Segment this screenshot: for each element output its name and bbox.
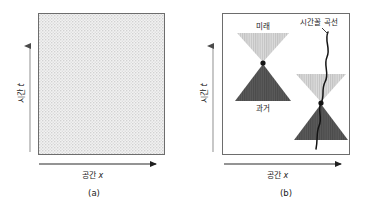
figure-root: 시간 t 공간 x (a) 미래 과거 [0, 0, 374, 206]
panel-b-space-axis-label: 공간 x [267, 170, 289, 180]
panel-a-caption: (a) [88, 188, 100, 198]
panel-b-time-axis-label: 시간 t [199, 82, 209, 103]
panel-a-space-axis-label: 공간 x [82, 170, 104, 180]
panel-a-time-axis-label-word: 시간 [16, 88, 26, 103]
svg-text:시간 t: 시간 t [199, 82, 209, 103]
future-label: 미래 [256, 22, 270, 31]
panel-b-space-axis-label-word: 공간 [267, 170, 282, 180]
past-label: 과거 [256, 104, 270, 113]
panel-b-space-axis-label-var: x [283, 171, 289, 180]
event-point-left [260, 60, 265, 65]
panel-a-spacetime-region [39, 14, 165, 155]
spacetime-diagram-figure: 시간 t 공간 x (a) 미래 과거 [0, 0, 374, 206]
svg-text:시간 t: 시간 t [16, 82, 26, 103]
panel-b-caption: (b) [280, 188, 292, 198]
panel-a-time-axis-label: 시간 t [16, 82, 26, 103]
timelike-curve-label: 시간꼴 곡선 [300, 17, 337, 27]
panel-a-space-axis-label-var: x [98, 171, 104, 180]
panel-a-space-axis-label-word: 공간 [82, 170, 97, 180]
panel-b-time-axis-label-word: 시간 [199, 88, 209, 103]
